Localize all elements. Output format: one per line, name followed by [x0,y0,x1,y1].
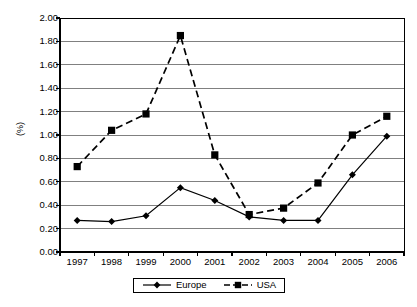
data-point-usa [142,110,149,117]
legend-item-usa: USA [223,280,277,290]
series-line-europe [77,136,387,221]
data-point-usa [246,211,253,218]
legend-label-usa: USA [257,280,277,290]
gridlines [60,18,404,229]
data-point-usa [349,131,356,138]
line-chart: (%) 0.000.200.400.600.801.001.201.401.60… [0,0,417,307]
data-point-europe [211,197,218,204]
data-point-europe [280,217,287,224]
data-point-europe [108,218,115,225]
legend-item-europe: Europe [142,280,207,290]
data-point-usa [280,205,287,212]
chart-legend: Europe USA [133,278,285,293]
data-point-usa [177,32,184,39]
data-series-layer [74,32,391,225]
x-axis-tick-labels: 1997199819992000200120022003200420052006 [0,256,417,270]
square-marker-dashed-line-icon [223,280,253,290]
data-point-europe [74,217,81,224]
data-point-usa [108,127,115,134]
data-point-usa [74,163,81,170]
data-point-usa [211,151,218,158]
x-axis-tick-label: 2006 [365,256,409,267]
diamond-marker-solid-line-icon [142,280,172,290]
data-point-usa [383,113,390,120]
legend-label-europe: Europe [176,280,207,290]
data-point-usa [314,179,321,186]
series-line-usa [77,36,387,215]
